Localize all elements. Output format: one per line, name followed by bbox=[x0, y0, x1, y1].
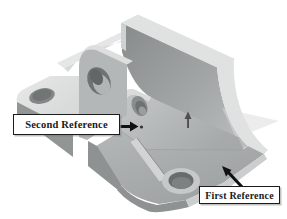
first-reference-callout: First Reference bbox=[199, 186, 280, 204]
first-reference-label: First Reference bbox=[205, 190, 274, 201]
second-reference-label: Second Reference bbox=[25, 119, 108, 130]
selection-dot bbox=[140, 125, 143, 128]
cad-viewport[interactable]: Second Reference First Reference bbox=[0, 0, 287, 219]
wall-left-edge-face bbox=[121, 23, 126, 51]
second-reference-callout: Second Reference bbox=[13, 114, 120, 135]
base-counterbore-hole[interactable] bbox=[162, 168, 200, 194]
